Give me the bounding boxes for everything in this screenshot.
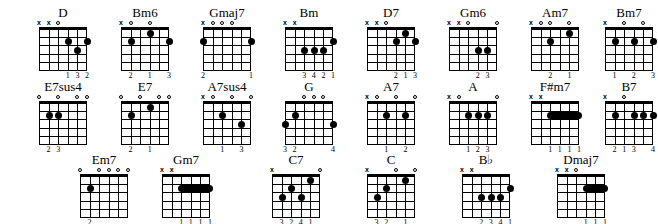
string-line bbox=[232, 103, 233, 144]
fret-line bbox=[272, 209, 320, 210]
string-line bbox=[213, 29, 214, 70]
finger-dot bbox=[166, 38, 173, 45]
chord-name: E7 bbox=[104, 80, 186, 94]
chord-name: Bm bbox=[268, 6, 350, 20]
string-line bbox=[560, 103, 561, 144]
finger-dot bbox=[612, 38, 619, 45]
fretboard-grid bbox=[285, 27, 333, 70]
open-string-icon bbox=[167, 95, 171, 99]
chord-name: B7 bbox=[588, 80, 658, 94]
string-markers bbox=[121, 94, 169, 101]
fret-line bbox=[557, 192, 605, 193]
fret-line bbox=[285, 111, 333, 112]
chord-name: E7sus4 bbox=[22, 80, 104, 94]
finger-number: 4 bbox=[497, 218, 504, 224]
finger-dot bbox=[74, 47, 81, 54]
string-line bbox=[99, 176, 100, 217]
chord-name: Gm6 bbox=[432, 6, 514, 20]
string-line bbox=[319, 176, 320, 217]
string-markers: x bbox=[605, 94, 653, 101]
fret-line bbox=[121, 45, 169, 46]
chord-name: A7sus4 bbox=[186, 80, 268, 94]
finger-dot bbox=[478, 194, 485, 201]
string-line bbox=[531, 103, 532, 144]
finger-number: 1 bbox=[402, 218, 409, 224]
fretboard-grid bbox=[462, 174, 510, 217]
string-line bbox=[203, 29, 204, 70]
string-line bbox=[576, 176, 577, 217]
finger-number: 3 bbox=[166, 71, 173, 80]
open-string-icon bbox=[466, 21, 470, 25]
string-line bbox=[39, 103, 40, 144]
string-markers: xx bbox=[449, 20, 497, 27]
string-line bbox=[396, 176, 397, 217]
fret-line bbox=[605, 45, 653, 46]
fretboard-grid bbox=[39, 101, 87, 144]
chord-diagram: C7x3241 bbox=[255, 153, 337, 224]
finger-number: 3 bbox=[487, 218, 494, 224]
finger-number: 1 bbox=[402, 71, 409, 80]
chord-diagram: A7x12 bbox=[350, 80, 432, 155]
open-string-icon bbox=[97, 168, 101, 172]
fret-line bbox=[605, 62, 653, 63]
fret-line bbox=[367, 128, 415, 129]
open-string-icon bbox=[126, 168, 130, 172]
string-line bbox=[624, 29, 625, 70]
finger-number: 3 bbox=[373, 218, 380, 224]
string-line bbox=[605, 29, 606, 70]
chord-diagram: Am7x21 bbox=[514, 6, 596, 81]
fret-line bbox=[367, 209, 415, 210]
muted-string-icon: x bbox=[45, 20, 52, 27]
string-line bbox=[634, 29, 635, 70]
open-string-icon bbox=[75, 95, 79, 99]
open-string-icon bbox=[413, 168, 417, 172]
string-line bbox=[386, 176, 387, 217]
chord-name: Bm6 bbox=[104, 6, 186, 20]
chord-diagram: F#m7xx1111 bbox=[514, 80, 596, 155]
string-line bbox=[49, 103, 50, 144]
string-line bbox=[396, 29, 397, 70]
fret-line bbox=[80, 201, 128, 202]
nut bbox=[285, 101, 333, 104]
chord-diagram: Gm7xx1111 bbox=[145, 153, 227, 224]
finger-dot bbox=[488, 194, 495, 201]
nut bbox=[39, 101, 87, 104]
fret-line bbox=[121, 54, 169, 55]
nut bbox=[367, 174, 415, 177]
muted-string-icon: x bbox=[563, 167, 570, 174]
finger-number: 1 bbox=[592, 218, 599, 224]
finger-number: 1 bbox=[602, 218, 609, 224]
string-markers bbox=[39, 94, 87, 101]
open-string-icon bbox=[567, 21, 571, 25]
string-line bbox=[121, 103, 122, 144]
muted-string-icon: x bbox=[168, 167, 175, 174]
chord-name: Em7 bbox=[63, 153, 145, 167]
string-line bbox=[272, 176, 273, 217]
nut bbox=[557, 174, 605, 177]
string-markers: x bbox=[272, 167, 320, 174]
fret-line bbox=[39, 62, 87, 63]
finger-number: 1 bbox=[307, 218, 314, 224]
finger-dot bbox=[84, 38, 91, 45]
finger-number: 2 bbox=[45, 145, 52, 154]
muted-string-icon: x bbox=[373, 20, 380, 27]
string-markers: x bbox=[203, 20, 251, 27]
chord-diagram: Gmaj7x21 bbox=[186, 6, 268, 81]
fret-line bbox=[203, 111, 251, 112]
open-string-icon bbox=[495, 21, 499, 25]
fretboard-grid bbox=[605, 27, 653, 70]
string-markers: x bbox=[203, 94, 251, 101]
string-line bbox=[643, 29, 644, 70]
barre-bar bbox=[583, 185, 608, 192]
fretboard-grid bbox=[80, 174, 128, 217]
muted-string-icon: x bbox=[200, 94, 207, 101]
string-line bbox=[159, 29, 160, 70]
fret-line bbox=[462, 209, 510, 210]
open-string-icon bbox=[539, 21, 543, 25]
finger-dot bbox=[612, 112, 619, 119]
string-line bbox=[314, 103, 315, 144]
string-markers bbox=[285, 94, 333, 101]
string-line bbox=[560, 29, 561, 70]
nut bbox=[462, 174, 510, 177]
fret-line bbox=[121, 128, 169, 129]
